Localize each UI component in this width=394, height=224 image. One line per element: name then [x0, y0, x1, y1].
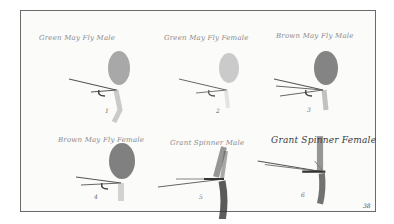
fly-label-3: Brown May Fly Male: [276, 32, 354, 40]
fly-image-4: [66, 139, 156, 219]
fly-image-3: [266, 46, 356, 126]
fly-image-2: [171, 46, 261, 126]
fly-number-5: 5: [199, 193, 203, 200]
fly-number-3: 3: [307, 106, 311, 113]
fly-number-1: 1: [105, 107, 109, 114]
fly-plate-card: Green May Fly Male 1 Green May Fly Femal…: [20, 10, 376, 212]
fly-number-4: 4: [94, 193, 98, 200]
fly-number-2: 2: [216, 107, 220, 114]
fly-image-6: [251, 129, 341, 209]
page-number: 38: [363, 202, 371, 209]
fly-number-6: 6: [301, 191, 305, 198]
fly-label-1: Green May Fly Male: [39, 34, 115, 42]
fly-image-5: [156, 139, 246, 219]
fly-image-1: [61, 46, 151, 126]
fly-label-2: Green May Fly Female: [164, 34, 249, 42]
